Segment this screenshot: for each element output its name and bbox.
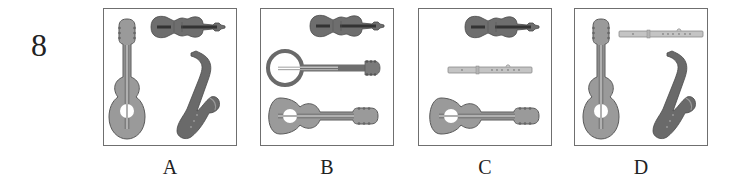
guitar-icon xyxy=(583,19,619,139)
option-a-image[interactable] xyxy=(103,8,237,146)
option-d-label[interactable]: D xyxy=(574,156,708,179)
banjo-icon xyxy=(268,51,380,85)
option-b-label[interactable]: B xyxy=(260,156,394,179)
option-b-image[interactable] xyxy=(260,8,394,146)
flute-icon xyxy=(448,65,532,74)
option-b-instruments xyxy=(261,9,392,144)
option-d-image[interactable] xyxy=(574,8,708,146)
question-number: 8 xyxy=(31,29,47,61)
option-c-label[interactable]: C xyxy=(418,156,552,179)
option-a-instruments xyxy=(104,9,235,144)
saxophone-icon xyxy=(177,51,220,139)
guitar-icon xyxy=(109,19,145,139)
guitar-icon xyxy=(430,98,539,134)
violin-icon xyxy=(310,15,384,36)
flute-icon xyxy=(619,29,703,38)
option-d-instruments xyxy=(575,9,706,144)
saxophone-icon xyxy=(653,51,696,139)
violin-icon xyxy=(151,16,225,37)
option-a-label[interactable]: A xyxy=(103,156,237,179)
option-c-image[interactable] xyxy=(418,8,552,146)
option-c-instruments xyxy=(419,9,550,144)
guitar-icon xyxy=(269,98,378,134)
violin-icon xyxy=(465,16,539,37)
